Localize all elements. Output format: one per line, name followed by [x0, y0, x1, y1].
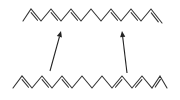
arrow-head-icon — [120, 31, 125, 37]
arrow-shaft — [50, 37, 59, 71]
chain-backbone — [23, 9, 162, 23]
arrow-shaft — [123, 37, 127, 73]
reaction-arrows — [50, 31, 127, 73]
arrow-head-icon — [57, 31, 62, 37]
bottom-polyene-chain — [13, 76, 167, 88]
top-polyene-chain — [23, 9, 162, 23]
chain-backbone — [13, 76, 167, 88]
double-bond-line — [155, 79, 160, 87]
diagram-canvas — [0, 0, 180, 100]
